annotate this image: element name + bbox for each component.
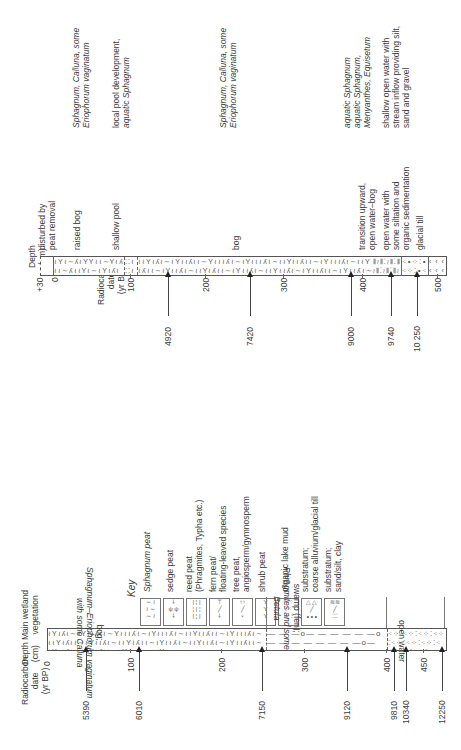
core-b-disturbed-zone	[41, 257, 53, 275]
core-a-date-arrow	[86, 651, 87, 691]
core-b-depth-tick: 500	[433, 278, 443, 292]
core-a-date-label: 12250	[437, 700, 447, 724]
key-label: Sphagnum peat	[142, 532, 152, 592]
key-label: sedge peat	[165, 550, 175, 592]
core-b-veg-label: aquatic Sphagnum aquatic Sphagnum, Menya…	[342, 37, 372, 128]
core-b-sphagnum-zone: ≀Y≀∼ʎ≀ΥΥ≀≀∼Y≀ʎ≀≀∼ʎ≀≀Υ≀∼≀Y≀ʎ≀≀∼≀Υ≀≀	[54, 257, 124, 275]
key-label: fern peat/floating-leaved species	[208, 506, 228, 592]
core-b-date-arrow	[417, 276, 418, 316]
core-b-date-label: 9740	[386, 327, 396, 346]
core-b-env-label: bog	[231, 236, 241, 250]
core-b-env-label: transition upward,open water–bog	[357, 183, 377, 250]
core-a-depth-header: Depth(cm)	[20, 642, 40, 665]
core-a-column: ≀Y≀ʎ≀∼≀Y≀≀ʎ≀≀∼Y≀≀≀ʎ≀∼≀Y≀≀≀ʎ≀∼≀≀Y≀≀ʎ≀≀∼≀Y…	[47, 628, 447, 651]
core-a-depth-tick: 0	[42, 661, 52, 666]
core-a-date-arrow	[442, 651, 443, 691]
core-b-depth-tick: 200	[201, 278, 211, 292]
core-b-depth-tick: 100	[126, 278, 136, 292]
core-b-veg-label: Sphagnum, Calluna, someEriophorum vagina…	[71, 28, 91, 128]
core-a-veg-label: bog; Sphagnum–Eriophorum vaginatum with …	[75, 567, 105, 698]
core-b-depth-tick: 400	[358, 278, 368, 292]
key-swatch-sphagnum-peat: ∼ ≀≀ ∼∼ ≀	[140, 598, 161, 626]
core-b-depth-tick: +30	[35, 278, 45, 292]
core-a-date-arrow	[262, 651, 263, 691]
key-label: reed peat(Phragmites, Typha etc.)	[184, 500, 204, 592]
core-b-date-arrow	[351, 276, 352, 316]
core-b-env-label: raised bog	[72, 210, 82, 250]
core-a-date-arrow	[394, 651, 395, 691]
core-b-env-label: open water withsome siltation andorganic…	[381, 167, 411, 250]
core-b-date-label: 9000	[346, 327, 356, 346]
key-swatch-sedge-peat: ⸸ψ ψ⸸	[163, 598, 184, 626]
key-label: tree peat,angiosperm/gymnosperm	[231, 496, 251, 592]
core-a-wetland-header: Main wetlandvegetation	[20, 590, 40, 640]
core-a-depth-tick: 400	[382, 658, 392, 672]
core-b-date-label: 4920	[163, 327, 173, 346]
core-a-depth-tick: 450	[419, 658, 429, 672]
key-swatch-fine-substratum: ≋≋╱⁚⁚⁚	[324, 598, 345, 626]
core-b-date-label: 7420	[245, 327, 255, 346]
core-b-env-label: shallow pool	[111, 203, 121, 250]
core-b-column: ≀Y≀∼ʎ≀ΥΥ≀≀∼Y≀ʎ≀≀∼ʎ≀≀Υ≀∼≀Y≀ʎ≀≀∼≀Υ≀≀ ⁚⁚≀⁚⁚…	[40, 256, 447, 276]
legend-title: Key	[127, 580, 137, 597]
core-b-depth-tick: 0	[50, 277, 60, 282]
core-a-veg-label: swamp (fen); Phragmites and some Betula	[272, 567, 302, 650]
core-b-veg-label: local pool development,aquatic Sphagnum	[111, 39, 131, 128]
core-a-date-label: 7150	[257, 701, 267, 720]
key-label: substratum;coarse alluvium/glacial till	[300, 496, 320, 592]
core-a-depth-tick: 200	[217, 658, 227, 672]
core-b-veg-label: shallow open water withstream inflow pro…	[381, 26, 411, 128]
core-b-bog-zone: ≀≀Y≀ʎ≀∼≀Y≀≀ʎ≀≀∼Y≀≀≀ʎ≀∼≀Y≀≀≀ʎ≀∼≀≀Y≀≀ʎ≀≀∼≀…	[138, 257, 373, 275]
core-a-depth-tick: 300	[300, 658, 310, 672]
core-b-date-label: 10 250	[412, 326, 422, 352]
key-swatch-reed-peat: | ¦ |¦ | ¦| ¦ |	[186, 598, 207, 626]
core-a-date-label: 6010	[134, 701, 144, 720]
key-label: substratum;sand/silt, clay	[323, 541, 343, 592]
key-swatch-fern-peat: ⊤╱⸸	[209, 598, 230, 626]
core-b-till-zone: ‹ ‹ ‹ ‹ ‹ ‹	[429, 257, 446, 275]
core-a-date-arrow	[406, 651, 407, 691]
core-b-date-arrow	[168, 276, 169, 316]
core-b-transition-zone: ⦀≀⦀⁚≀⦀⁚⦀≀⦀⁚≀⦀⁚⦀≀	[373, 257, 401, 275]
core-b-env-label: disturbed bypeat removal	[37, 201, 57, 250]
key-swatch-coarse-substratum: △ △╱∘∘∘	[301, 598, 322, 626]
core-b-date-arrow	[391, 276, 392, 316]
key-swatch-tree-peat: ↑↑╱♀	[232, 598, 253, 626]
core-b-depth-tick: 300	[279, 278, 289, 292]
core-a-depth-tick: 100	[126, 658, 136, 672]
core-b-veg-label: Sphagnum, Calluna, someEriophorum vagina…	[218, 28, 238, 128]
core-a-date-label: 9810	[389, 701, 399, 720]
core-b-date-arrow	[250, 276, 251, 316]
core-a-date-arrow	[139, 651, 140, 691]
core-a-date-label: 9120	[342, 701, 352, 720]
core-a-date-label: 10340	[401, 700, 411, 724]
core-b-pool-zone: ⁚⁚≀⁚⁚≀⁚⁚	[125, 257, 137, 275]
core-a-date-label: 5390	[81, 701, 91, 720]
key-label: shrub peat	[257, 552, 267, 592]
core-b-env-label: glacial till	[415, 216, 425, 251]
core-a-date-arrow	[347, 651, 348, 691]
